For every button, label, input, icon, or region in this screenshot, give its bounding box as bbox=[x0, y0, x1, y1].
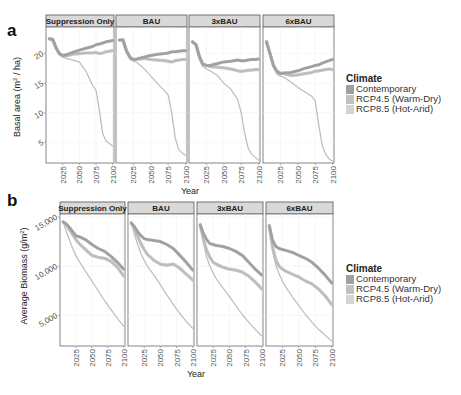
svg-text:15,000: 15,000 bbox=[33, 212, 59, 232]
svg-text:2075: 2075 bbox=[311, 165, 320, 183]
legend-key-rcp45 bbox=[346, 285, 354, 294]
svg-text:2050: 2050 bbox=[88, 348, 97, 366]
legend-key-rcp85 bbox=[346, 105, 354, 114]
svg-text:2025: 2025 bbox=[276, 165, 285, 183]
svg-text:Suppression Only: Suppression Only bbox=[58, 204, 127, 213]
svg-text:2025: 2025 bbox=[59, 165, 68, 183]
legend-label: RCP8.5 (Hot-Arid) bbox=[356, 294, 433, 304]
legend-item-rcp85: RCP8.5 (Hot-Arid) bbox=[346, 104, 441, 114]
legend-key-rcp45 bbox=[346, 95, 354, 104]
svg-text:2050: 2050 bbox=[220, 165, 229, 183]
svg-text:2075: 2075 bbox=[237, 165, 246, 183]
svg-text:6xBAU: 6xBAU bbox=[286, 204, 312, 213]
x-axis-title-b: Year bbox=[187, 369, 205, 379]
facet-suppression-only: Suppression Only2025205020752100 bbox=[46, 15, 118, 184]
facet-6xbau: 6xBAU2025205020752100 bbox=[263, 15, 338, 184]
svg-text:Basal area (m2 / ha): Basal area (m2 / ha) bbox=[12, 57, 22, 137]
svg-text:2050: 2050 bbox=[156, 348, 165, 366]
facet-bau: BAU2025205020752100 bbox=[116, 15, 191, 184]
svg-text:3xBAU: 3xBAU bbox=[217, 204, 243, 213]
facet-3xbau: 3xBAU2025205020752100 bbox=[197, 202, 267, 367]
svg-text:3xBAU: 3xBAU bbox=[211, 17, 237, 26]
svg-text:2025: 2025 bbox=[72, 348, 81, 366]
svg-text:2075: 2075 bbox=[311, 348, 320, 366]
chart-panel-a: 5101520Suppression Only2025205020752100B… bbox=[33, 15, 338, 184]
figure: a Basal area (m2 / ha) 5101520Suppressio… bbox=[0, 0, 461, 395]
panel-letter-a: a bbox=[7, 21, 17, 40]
panel-letter-b: b bbox=[7, 191, 17, 210]
svg-text:2075: 2075 bbox=[242, 348, 251, 366]
svg-text:2100: 2100 bbox=[255, 165, 264, 183]
y-axis-title-b: Average Biomass (g/m2) bbox=[19, 227, 29, 324]
svg-text:5: 5 bbox=[37, 138, 46, 148]
svg-text:10: 10 bbox=[33, 108, 46, 121]
svg-text:5,000: 5,000 bbox=[37, 311, 59, 329]
svg-text:2100: 2100 bbox=[328, 348, 337, 366]
svg-text:Suppression Only: Suppression Only bbox=[46, 17, 115, 26]
svg-text:2100: 2100 bbox=[120, 348, 129, 366]
svg-text:2100: 2100 bbox=[109, 165, 118, 183]
svg-text:2075: 2075 bbox=[104, 348, 113, 366]
svg-text:2025: 2025 bbox=[278, 348, 287, 366]
svg-text:2075: 2075 bbox=[173, 348, 182, 366]
svg-text:2100: 2100 bbox=[329, 165, 338, 183]
legend-key-contemporary bbox=[346, 275, 354, 284]
svg-text:2075: 2075 bbox=[164, 165, 173, 183]
legend-label: RCP8.5 (Hot-Arid) bbox=[356, 104, 433, 114]
svg-text:2025: 2025 bbox=[129, 165, 138, 183]
legend-item-rcp85: RCP8.5 (Hot-Arid) bbox=[346, 294, 441, 304]
x-axis-title-a: Year bbox=[181, 186, 199, 196]
svg-text:2100: 2100 bbox=[189, 348, 198, 366]
legend-key-rcp85 bbox=[346, 295, 354, 304]
svg-text:2100: 2100 bbox=[258, 348, 267, 366]
y-axis-title-a: Basal area (m2 / ha) bbox=[12, 57, 22, 137]
facet-bau: BAU2025205020752100 bbox=[128, 202, 198, 367]
svg-text:2050: 2050 bbox=[147, 165, 156, 183]
svg-text:15: 15 bbox=[33, 79, 46, 92]
svg-text:2050: 2050 bbox=[294, 165, 303, 183]
legend-b: Climate Contemporary RCP4.5 (Warm-Dry) R… bbox=[346, 263, 441, 304]
facet-6xbau: 6xBAU2025205020752100 bbox=[266, 202, 337, 367]
facet-3xbau: 3xBAU2025205020752100 bbox=[189, 15, 264, 184]
facet-suppression-only: Suppression Only2025205020752100 bbox=[58, 202, 128, 367]
svg-text:Average Biomass (g/m2): Average Biomass (g/m2) bbox=[19, 227, 29, 324]
svg-text:2075: 2075 bbox=[92, 165, 101, 183]
svg-text:BAU: BAU bbox=[143, 17, 161, 26]
svg-text:10,000: 10,000 bbox=[33, 262, 59, 282]
svg-text:2025: 2025 bbox=[140, 348, 149, 366]
svg-text:BAU: BAU bbox=[152, 204, 170, 213]
svg-text:2100: 2100 bbox=[182, 165, 191, 183]
svg-text:2050: 2050 bbox=[295, 348, 304, 366]
legend-key-contemporary bbox=[346, 85, 354, 94]
svg-text:20: 20 bbox=[33, 49, 46, 62]
svg-text:2025: 2025 bbox=[202, 165, 211, 183]
chart-panel-b: 5,00010,00015,000Suppression Only2025205… bbox=[33, 202, 336, 367]
svg-text:2025: 2025 bbox=[209, 348, 218, 366]
svg-text:6xBAU: 6xBAU bbox=[285, 17, 311, 26]
svg-text:2050: 2050 bbox=[75, 165, 84, 183]
legend-a: Climate Contemporary RCP4.5 (Warm-Dry) R… bbox=[346, 73, 441, 114]
svg-text:2050: 2050 bbox=[225, 348, 234, 366]
